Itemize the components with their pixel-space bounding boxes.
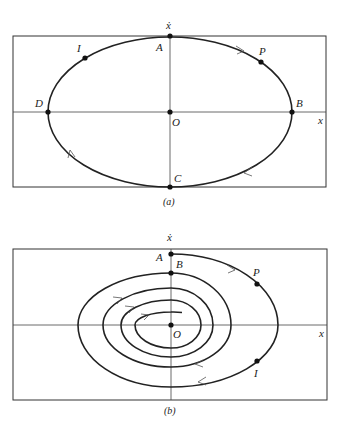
panel-b: ẋ x A B O P I (b) bbox=[13, 231, 327, 417]
panel-a-point-O bbox=[167, 109, 172, 114]
panel-a-point-D bbox=[45, 109, 50, 114]
panel-b-label-I: I bbox=[253, 367, 259, 379]
panel-b-label-B: B bbox=[176, 258, 183, 270]
panel-a-point-A bbox=[167, 33, 172, 38]
panel-b-point-A bbox=[168, 251, 173, 256]
panel-b-point-O bbox=[168, 322, 173, 327]
panel-a-x-label: x bbox=[317, 114, 323, 126]
panel-b-point-P bbox=[254, 281, 259, 286]
panel-a-point-P bbox=[258, 59, 263, 64]
panel-a: ẋ x A B C D O P I (a) bbox=[13, 19, 326, 208]
panel-a-point-C bbox=[167, 184, 172, 189]
panel-b-xdot-label: ẋ bbox=[166, 231, 172, 243]
panel-a-point-B bbox=[289, 109, 294, 114]
panel-a-label-D: D bbox=[34, 97, 43, 109]
panel-a-label-P: P bbox=[258, 45, 266, 57]
panel-a-label-B: B bbox=[296, 97, 303, 109]
panel-a-xdot-label: ẋ bbox=[165, 19, 171, 31]
phase-plane-figure: ẋ x A B C D O P I (a) ẋ x A B O P bbox=[0, 0, 340, 422]
panel-b-x-label: x bbox=[318, 327, 324, 339]
panel-b-point-I bbox=[254, 358, 259, 363]
panel-a-caption: (a) bbox=[163, 196, 175, 208]
panel-a-label-O: O bbox=[172, 116, 180, 128]
panel-b-caption: (b) bbox=[164, 405, 176, 417]
panel-a-label-I: I bbox=[76, 42, 82, 54]
panel-a-label-A: A bbox=[155, 41, 163, 53]
panel-b-point-B bbox=[168, 270, 173, 275]
panel-b-spiral-trajectory bbox=[78, 254, 278, 387]
panel-b-label-A: A bbox=[155, 251, 163, 263]
panel-b-label-O: O bbox=[173, 328, 181, 340]
panel-a-label-C: C bbox=[174, 172, 182, 184]
panel-a-point-I bbox=[82, 55, 87, 60]
panel-b-label-P: P bbox=[252, 266, 260, 278]
